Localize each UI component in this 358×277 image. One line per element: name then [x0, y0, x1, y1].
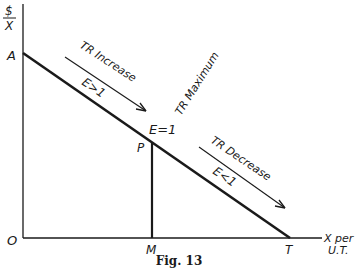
y-axis-label-x: X — [4, 19, 14, 33]
y-axis-label-dollar: $ — [5, 4, 13, 18]
figure-caption: Fig. 13 — [0, 254, 358, 268]
label-p: P — [137, 141, 145, 155]
label-e-greater-1: E>1 — [79, 75, 108, 101]
label-a: A — [6, 48, 16, 63]
label-tr-maximum: TR Maximum — [173, 50, 222, 118]
demand-elasticity-diagram: $ X A O M T P E=1 X per U.T. TR Increase… — [0, 0, 358, 277]
demand-line — [23, 53, 290, 238]
tr-increase-arrowhead-icon — [136, 103, 146, 111]
label-o: O — [7, 233, 17, 248]
label-e-equals-1: E=1 — [149, 122, 176, 137]
